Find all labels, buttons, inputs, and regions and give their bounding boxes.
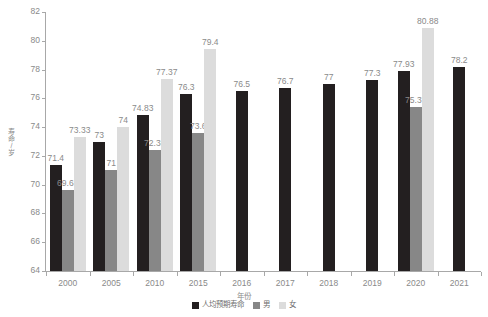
bar-chart: 寿命/岁 82807876747270686664 71.469.6373.33… <box>0 0 488 317</box>
legend-swatch-icon <box>192 302 199 309</box>
bar-value-label: 71.4 <box>40 154 72 163</box>
bar <box>105 170 117 271</box>
legend-swatch-icon <box>279 302 286 309</box>
legend-item[interactable]: 男 <box>253 301 270 309</box>
y-tick-label: 82 <box>18 7 40 16</box>
bar-value-label: 77 <box>313 73 345 82</box>
bar-value-label: 77.37 <box>151 68 183 77</box>
bar <box>74 137 86 271</box>
x-tick-mark <box>220 272 221 276</box>
y-tick-label: 74 <box>18 122 40 131</box>
bar <box>117 127 129 271</box>
bar <box>279 88 291 271</box>
bar-value-label: 76.7 <box>269 77 301 86</box>
bar-value-label: 77.93 <box>388 60 420 69</box>
x-tick-mark <box>438 272 439 276</box>
bar <box>410 107 422 271</box>
x-tick-mark <box>264 272 265 276</box>
bar <box>149 150 161 271</box>
legend-label: 女 <box>289 301 296 309</box>
legend-item[interactable]: 女 <box>279 301 296 309</box>
chart-legend: 人均预期寿命男女 <box>0 301 488 309</box>
x-tick-label: 2015 <box>178 278 218 288</box>
bar <box>161 79 173 271</box>
x-tick-label: 2017 <box>265 278 305 288</box>
x-tick-mark <box>90 272 91 276</box>
legend-label: 人均预期寿命 <box>202 301 244 309</box>
x-tick-label: 2019 <box>352 278 392 288</box>
x-tick-mark <box>307 272 308 276</box>
x-tick-mark <box>351 272 352 276</box>
bar <box>323 84 335 271</box>
x-tick-label: 2010 <box>135 278 175 288</box>
x-tick-mark <box>394 272 395 276</box>
bar <box>422 28 434 271</box>
x-tick-mark <box>133 272 134 276</box>
legend-swatch-icon <box>253 302 260 309</box>
bar-value-label: 74 <box>107 116 139 125</box>
y-tick-label: 64 <box>18 266 40 275</box>
y-tick-label: 72 <box>18 151 40 160</box>
legend-item[interactable]: 人均预期寿命 <box>192 301 244 309</box>
bar-value-label: 73 <box>83 131 115 140</box>
bar <box>453 67 465 271</box>
y-tick-label: 76 <box>18 93 40 102</box>
bar <box>62 190 74 271</box>
x-tick-label: 2000 <box>48 278 88 288</box>
x-tick-label: 2016 <box>222 278 262 288</box>
x-tick-mark <box>177 272 178 276</box>
x-tick-label: 2005 <box>91 278 131 288</box>
legend-label: 男 <box>263 301 270 309</box>
bar-value-label: 74.83 <box>127 104 159 113</box>
y-axis-title: 寿命/岁 <box>1 128 15 156</box>
bar-value-label: 77.3 <box>356 69 388 78</box>
y-tick-label: 80 <box>18 36 40 45</box>
y-tick-label: 78 <box>18 65 40 74</box>
bar <box>192 133 204 271</box>
x-tick-mark <box>481 272 482 276</box>
bar-value-label: 78.2 <box>443 56 475 65</box>
y-tick-label: 70 <box>18 180 40 189</box>
x-tick-mark <box>46 272 47 276</box>
x-axis-title: 年份 <box>0 290 488 301</box>
bar-value-label: 79.4 <box>194 38 226 47</box>
x-tick-label: 2021 <box>439 278 479 288</box>
y-tick-label: 66 <box>18 237 40 246</box>
bar <box>204 49 216 271</box>
bar <box>366 80 378 271</box>
bar-value-label: 80.88 <box>412 17 444 26</box>
bar-value-label: 76.3 <box>170 83 202 92</box>
bar-value-label: 76.5 <box>226 80 258 89</box>
bar <box>236 91 248 271</box>
x-tick-label: 2018 <box>309 278 349 288</box>
plot-area: 71.469.6373.3373717474.8372.3877.3776.37… <box>46 12 481 271</box>
y-tick-label: 68 <box>18 208 40 217</box>
x-tick-label: 2020 <box>396 278 436 288</box>
